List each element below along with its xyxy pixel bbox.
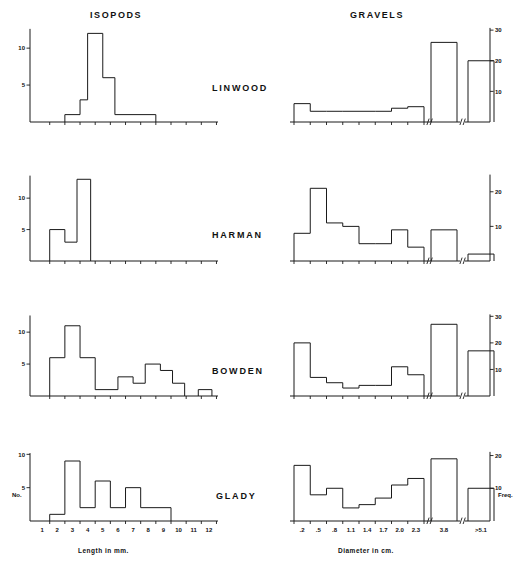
svg-text:20: 20	[495, 340, 502, 346]
svg-text:10: 10	[18, 45, 25, 51]
svg-text:30: 30	[495, 314, 502, 320]
svg-text:20: 20	[495, 453, 502, 459]
svg-text:3: 3	[71, 527, 75, 533]
svg-text:4: 4	[86, 527, 90, 533]
svg-text:5: 5	[101, 527, 105, 533]
svg-text:10: 10	[495, 224, 502, 230]
svg-text:.8: .8	[332, 527, 338, 533]
svg-text:5: 5	[22, 82, 26, 88]
svg-text:5: 5	[22, 485, 26, 491]
svg-text:6: 6	[116, 527, 120, 533]
panel-isopods-harman: 510	[0, 165, 250, 275]
svg-text:10: 10	[175, 527, 182, 533]
svg-text:20: 20	[495, 189, 502, 195]
svg-text:11: 11	[191, 527, 198, 533]
panel-isopods-linwood: 510	[0, 18, 250, 136]
panel-gravels-linwood: 102030	[272, 18, 522, 136]
svg-text:.5: .5	[316, 527, 322, 533]
svg-text:9: 9	[162, 527, 166, 533]
svg-text:10: 10	[18, 452, 25, 458]
svg-text:5: 5	[22, 361, 26, 367]
svg-text:10: 10	[495, 485, 502, 491]
svg-text:7: 7	[131, 527, 135, 533]
svg-text:30: 30	[495, 27, 502, 33]
svg-text:10: 10	[495, 367, 502, 373]
panel-gravels-glady: 1020.2.5.81.11.41.72.02.33.8>5.1	[272, 443, 522, 543]
panel-isopods-glady: 510123456789101112	[0, 443, 250, 543]
right-x-axis-title: Diameter in cm.	[338, 547, 394, 554]
left-x-axis-title: Length in mm.	[78, 547, 129, 554]
svg-text:1.1: 1.1	[347, 527, 356, 533]
svg-text:10: 10	[18, 329, 25, 335]
svg-text:>5.1: >5.1	[475, 527, 488, 533]
svg-text:1.4: 1.4	[363, 527, 372, 533]
panel-gravels-bowden: 102030	[272, 305, 522, 410]
svg-text:3.8: 3.8	[440, 527, 449, 533]
svg-text:1: 1	[40, 527, 44, 533]
svg-text:.2: .2	[300, 527, 306, 533]
svg-text:2.0: 2.0	[395, 527, 404, 533]
svg-text:20: 20	[495, 58, 502, 64]
svg-text:2: 2	[56, 527, 60, 533]
panel-isopods-bowden: 510	[0, 305, 250, 410]
svg-text:1.7: 1.7	[379, 527, 388, 533]
svg-text:12: 12	[206, 527, 213, 533]
svg-text:5: 5	[22, 227, 26, 233]
panel-gravels-harman: 1020	[272, 165, 522, 275]
svg-text:10: 10	[495, 89, 502, 95]
svg-text:8: 8	[147, 527, 151, 533]
svg-text:2.3: 2.3	[412, 527, 421, 533]
svg-text:10: 10	[18, 195, 25, 201]
figure-canvas: ISOPODS GRAVELS LINWOOD HARMAN BOWDEN GL…	[0, 0, 522, 563]
